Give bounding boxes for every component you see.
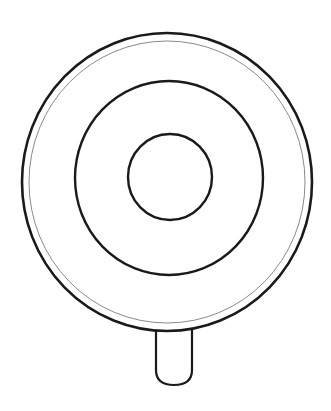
lollipop-drawing xyxy=(0,0,331,411)
lollipop-stick xyxy=(156,330,192,385)
outer-rim-circle xyxy=(22,33,312,331)
